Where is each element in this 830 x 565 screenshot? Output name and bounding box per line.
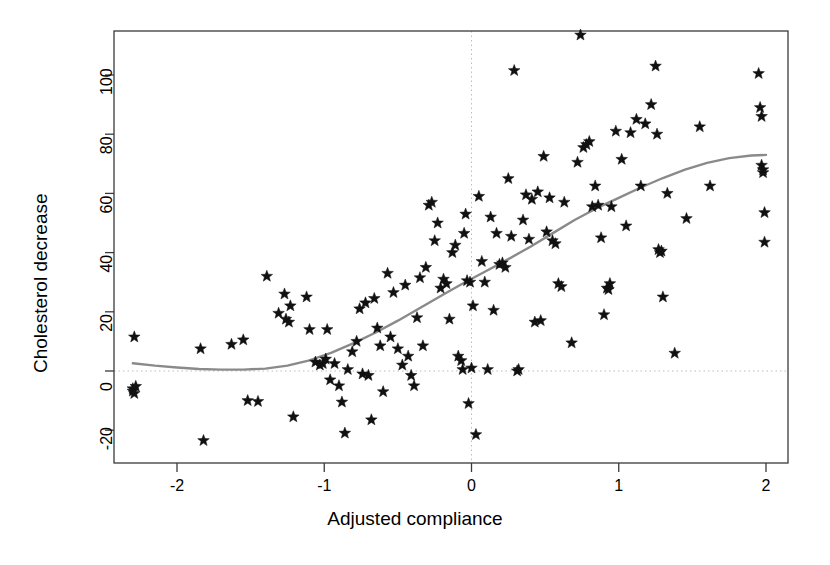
data-point (402, 350, 414, 361)
data-point (346, 346, 358, 357)
data-point (458, 227, 470, 238)
data-point (662, 187, 674, 198)
data-point (517, 214, 529, 225)
x-tick-label-0: 0 (452, 477, 492, 495)
data-point (385, 331, 397, 342)
data-point (198, 434, 210, 445)
fit-line (133, 155, 766, 370)
data-point (129, 331, 141, 342)
data-point (754, 101, 766, 112)
data-point (532, 186, 544, 197)
data-point (466, 362, 478, 373)
data-point (273, 307, 285, 318)
y-tick-label--20: -20 (98, 427, 116, 450)
y-tick-label-20: 20 (98, 314, 116, 332)
y-tick-label-40: 40 (98, 255, 116, 273)
data-point (382, 267, 394, 278)
data-point (242, 395, 254, 406)
data-point (651, 128, 663, 139)
data-point (363, 369, 375, 380)
data-point (279, 288, 291, 299)
data-point (595, 232, 607, 243)
data-point (450, 239, 462, 250)
data-point (650, 60, 662, 71)
data-point (399, 279, 411, 290)
data-point (342, 363, 354, 374)
data-point (681, 212, 693, 223)
data-point (544, 192, 556, 203)
data-point (470, 429, 482, 440)
data-point (324, 374, 336, 385)
data-point (589, 180, 601, 191)
data-point (503, 173, 515, 184)
data-point (523, 233, 535, 244)
fit-curve (133, 155, 766, 370)
data-point (508, 64, 520, 75)
data-point (491, 227, 503, 238)
data-point (476, 255, 488, 266)
data-point (432, 217, 444, 228)
x-axis-title: Adjusted compliance (0, 508, 830, 530)
data-point (566, 337, 578, 348)
data-point (226, 338, 238, 349)
data-point (694, 121, 706, 132)
y-axis-title: Cholesterol decrease (30, 193, 52, 373)
data-point (301, 291, 313, 302)
x-tick-label-2: 2 (746, 477, 786, 495)
data-point (195, 343, 207, 354)
data-point (488, 304, 500, 315)
data-point (261, 270, 273, 281)
data-point (360, 297, 372, 308)
data-point (538, 150, 550, 161)
reference-lines (114, 31, 788, 463)
data-point (366, 414, 378, 425)
y-tick-label-80: 80 (98, 136, 116, 154)
data-point (285, 300, 297, 311)
data-point (639, 118, 651, 129)
data-point (237, 334, 249, 345)
y-tick-label-60: 60 (98, 196, 116, 214)
data-point (704, 180, 716, 191)
x-tick-label-1: 1 (599, 477, 639, 495)
data-point (598, 309, 610, 320)
data-point (759, 236, 771, 247)
data-point (620, 220, 632, 231)
y-tick-label-100: 100 (98, 68, 116, 95)
data-point (572, 156, 584, 167)
data-point (339, 427, 351, 438)
data-point (417, 340, 429, 351)
data-point (374, 340, 386, 351)
data-point (377, 386, 389, 397)
x-tick-label--2: -2 (157, 477, 197, 495)
data-points (127, 29, 770, 446)
data-point (473, 190, 485, 201)
axis-ticks (105, 75, 766, 472)
scatter-plot-figure: Adjusted compliance Cholesterol decrease… (0, 0, 830, 565)
data-point (444, 313, 456, 324)
data-point (753, 67, 765, 78)
data-point (321, 323, 333, 334)
data-point (467, 300, 479, 311)
data-point (288, 411, 300, 422)
data-point (558, 196, 570, 207)
data-point (336, 396, 348, 407)
data-point (505, 230, 517, 241)
data-point (482, 363, 494, 374)
data-point (759, 207, 771, 218)
data-point (463, 397, 475, 408)
data-point (625, 127, 637, 138)
data-point (396, 359, 408, 370)
data-point (333, 380, 345, 391)
plot-border (114, 31, 788, 463)
x-tick-label--1: -1 (304, 477, 344, 495)
data-point (610, 125, 622, 136)
data-point (420, 261, 432, 272)
data-point (645, 99, 657, 110)
data-point (408, 380, 420, 391)
data-point (304, 323, 316, 334)
data-point (485, 211, 497, 222)
data-point (252, 395, 264, 406)
plot-frame (114, 31, 788, 463)
data-point (388, 286, 400, 297)
data-point (460, 208, 472, 219)
